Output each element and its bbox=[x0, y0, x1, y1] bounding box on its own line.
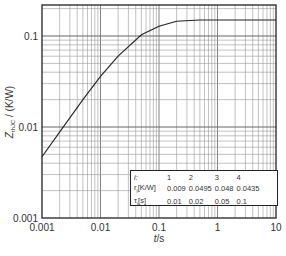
legend-t4: 0.1 bbox=[237, 196, 263, 209]
legend-header: i: bbox=[134, 173, 167, 183]
legend-col-1: 1 bbox=[167, 173, 189, 183]
y-axis-ticks: 0.0010.010.1 bbox=[13, 31, 38, 224]
legend-row-r: ri[K/W] 0.009 0.0495 0.048 0.0435 bbox=[134, 183, 262, 196]
legend-r4: 0.0435 bbox=[237, 183, 263, 196]
legend-r2: 0.0495 bbox=[189, 183, 215, 196]
legend-r1: 0.009 bbox=[167, 183, 189, 196]
thermal-parameters-table: i: 1 2 3 4 ri[K/W] 0.009 0.0495 0.048 0.… bbox=[130, 170, 278, 206]
legend-r-label: ri[K/W] bbox=[134, 183, 167, 196]
svg-text:0.001: 0.001 bbox=[29, 222, 54, 233]
legend-row-index: i: 1 2 3 4 bbox=[134, 173, 262, 183]
legend-col-4: 4 bbox=[237, 173, 263, 183]
legend-col-2: 2 bbox=[189, 173, 215, 183]
svg-text:0.01: 0.01 bbox=[19, 122, 39, 133]
x-axis-label: t/s bbox=[154, 233, 165, 244]
legend-row-tau: τi[s] 0.01 0.02 0.05 0.1 bbox=[134, 196, 262, 209]
y-axis-label: ZthJC / (K/W) bbox=[4, 86, 16, 139]
legend-tau-label: τi[s] bbox=[134, 196, 167, 209]
legend-t2: 0.02 bbox=[189, 196, 215, 209]
svg-text:0.1: 0.1 bbox=[152, 222, 166, 233]
legend-t3: 0.05 bbox=[215, 196, 237, 209]
svg-text:10: 10 bbox=[270, 222, 282, 233]
svg-text:0.001: 0.001 bbox=[13, 213, 38, 224]
svg-text:0.01: 0.01 bbox=[91, 222, 111, 233]
svg-text:0.1: 0.1 bbox=[24, 31, 38, 42]
svg-text:1: 1 bbox=[215, 222, 221, 233]
chart-canvas: 0.0010.010.1110 0.0010.010.1 t/s ZthJC /… bbox=[0, 0, 286, 256]
legend-col-3: 3 bbox=[215, 173, 237, 183]
legend-t1: 0.01 bbox=[167, 196, 189, 209]
legend-r3: 0.048 bbox=[215, 183, 237, 196]
x-axis-ticks: 0.0010.010.1110 bbox=[29, 222, 282, 233]
